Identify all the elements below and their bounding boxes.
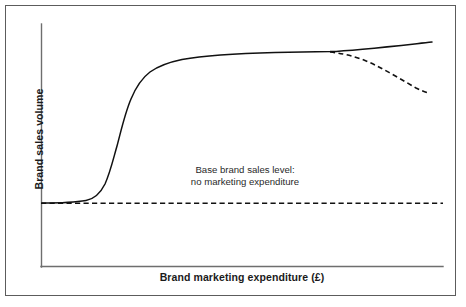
chart-figure: Brand sales volume Brand marketing expen… xyxy=(0,0,466,307)
annotation-line-2: no marketing expenditure xyxy=(160,176,330,188)
plot-area xyxy=(0,0,466,307)
annotation-line-1: Base brand sales level: xyxy=(160,164,330,176)
declining-response-dashed-curve xyxy=(330,52,429,93)
x-axis-label: Brand marketing expenditure (£) xyxy=(41,271,443,283)
y-axis-label: Brand sales volume xyxy=(33,59,45,219)
base-sales-annotation: Base brand sales level: no marketing exp… xyxy=(160,164,330,189)
